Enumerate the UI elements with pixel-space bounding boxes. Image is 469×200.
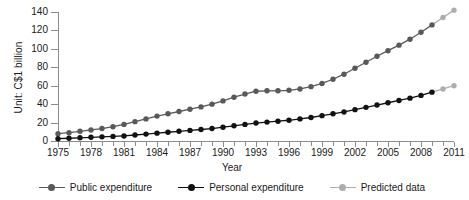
series-public-expenditure — [55, 7, 456, 136]
data-point-marker — [99, 134, 104, 139]
data-point-marker — [374, 102, 379, 107]
data-point-marker — [121, 133, 126, 138]
data-point-marker — [253, 120, 258, 125]
data-point-marker — [242, 122, 247, 127]
chart-legend: Public expenditurePersonal expenditurePr… — [0, 178, 464, 196]
data-point-marker — [319, 81, 324, 86]
legend-item-personal-expenditure[interactable]: Personal expenditure — [178, 182, 304, 193]
data-point-marker — [231, 123, 236, 128]
data-point-marker — [429, 22, 434, 27]
data-point-marker — [275, 118, 280, 123]
legend-label: Predicted data — [361, 182, 426, 193]
data-point-marker — [198, 127, 203, 132]
data-point-marker — [396, 98, 401, 103]
data-point-marker — [352, 107, 357, 112]
data-point-marker — [66, 130, 71, 135]
data-point-marker — [440, 86, 445, 91]
data-point-marker — [77, 135, 82, 140]
data-point-marker — [286, 118, 291, 123]
data-point-marker — [66, 136, 71, 141]
data-point-marker — [352, 66, 357, 71]
data-point-marker — [330, 77, 335, 82]
legend-marker-icon — [39, 182, 65, 192]
data-point-marker — [231, 95, 236, 100]
legend-marker-icon — [178, 182, 204, 192]
data-point-marker — [253, 89, 258, 94]
data-point-marker — [143, 116, 148, 121]
data-point-marker — [319, 113, 324, 118]
data-point-marker — [154, 113, 159, 118]
data-point-marker — [165, 130, 170, 135]
data-point-marker — [297, 116, 302, 121]
data-point-marker — [363, 60, 368, 65]
data-point-marker — [275, 88, 280, 93]
data-point-marker — [418, 93, 423, 98]
data-point-marker — [220, 124, 225, 129]
data-point-marker — [363, 105, 368, 110]
data-point-marker — [187, 128, 192, 133]
data-point-marker — [407, 95, 412, 100]
data-point-marker — [209, 101, 214, 106]
data-point-marker — [132, 132, 137, 137]
data-point-marker — [77, 129, 82, 134]
legend-item-public-expenditure[interactable]: Public expenditure — [39, 182, 152, 193]
data-point-marker — [121, 122, 126, 127]
data-point-marker — [286, 88, 291, 93]
data-point-marker — [88, 127, 93, 132]
data-point-marker — [341, 109, 346, 114]
data-point-marker — [154, 130, 159, 135]
data-point-marker — [220, 98, 225, 103]
data-point-marker — [407, 36, 412, 41]
data-point-marker — [330, 111, 335, 116]
data-point-marker — [418, 30, 423, 35]
data-point-marker — [264, 88, 269, 93]
data-point-marker — [264, 119, 269, 124]
data-point-marker — [308, 115, 313, 120]
data-point-marker — [99, 126, 104, 131]
data-point-marker — [88, 135, 93, 140]
data-point-marker — [374, 54, 379, 59]
legend-label: Public expenditure — [70, 182, 152, 193]
legend-marker-icon — [330, 182, 356, 192]
data-point-marker — [176, 109, 181, 114]
data-point-marker — [209, 126, 214, 131]
data-point-marker — [55, 136, 60, 141]
legend-label: Personal expenditure — [209, 182, 304, 193]
data-point-marker — [429, 89, 434, 94]
data-point-marker — [110, 124, 115, 129]
data-point-marker — [451, 7, 456, 12]
data-point-marker — [440, 15, 445, 20]
data-point-marker — [165, 111, 170, 116]
data-point-marker — [55, 131, 60, 136]
data-point-marker — [143, 131, 148, 136]
data-point-marker — [341, 72, 346, 77]
data-point-marker — [242, 91, 247, 96]
data-point-marker — [176, 129, 181, 134]
data-point-marker — [451, 83, 456, 88]
data-point-marker — [187, 107, 192, 112]
legend-item-predicted-data[interactable]: Predicted data — [330, 182, 426, 193]
data-point-marker — [396, 42, 401, 47]
data-point-marker — [385, 48, 390, 53]
data-point-marker — [132, 119, 137, 124]
data-point-marker — [110, 134, 115, 139]
data-point-marker — [297, 86, 302, 91]
data-point-marker — [308, 84, 313, 89]
x-axis-title: Year — [0, 162, 464, 173]
data-point-marker — [198, 104, 203, 109]
data-point-marker — [385, 100, 390, 105]
